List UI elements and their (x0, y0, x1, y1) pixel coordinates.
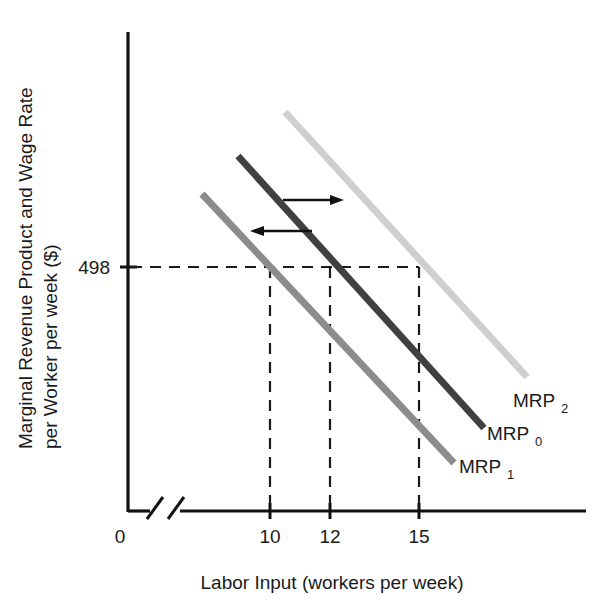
y-axis-title-line2: per Worker per week ($) (40, 245, 61, 450)
series-line-mrp1 (202, 194, 454, 463)
x-axis-title: Labor Input (workers per week) (201, 572, 464, 593)
series-label-mrp0-subscript: 0 (535, 434, 542, 449)
axis-break-slash-left (147, 497, 163, 519)
axis-break-slash-right (168, 497, 184, 519)
series-label-mrp2: MRP 2 (513, 390, 568, 416)
series-label-mrp1: MRP 1 (459, 456, 514, 482)
x-tick-label-15: 15 (408, 526, 429, 547)
shift-right-arrow-icon (283, 195, 344, 205)
series-label-mrp0: MRP 0 (487, 423, 542, 449)
x-tick-label-12: 12 (319, 526, 340, 547)
x-tick-label-0: 0 (115, 526, 126, 547)
series-group (202, 112, 527, 463)
annotation-arrows-group (250, 195, 344, 236)
series-label-mrp0-text: MRP (487, 423, 529, 444)
chart-figure: 498 0 10 12 15 Marginal Revenue Product … (0, 0, 604, 610)
series-label-mrp1-text: MRP (459, 456, 501, 477)
tick-labels-group: 498 0 10 12 15 (78, 257, 429, 547)
series-label-mrp1-subscript: 1 (507, 467, 514, 482)
y-tick-label-498: 498 (78, 257, 110, 278)
axis-titles-group: Marginal Revenue Product and Wage Rate p… (15, 87, 463, 593)
chart-canvas: 498 0 10 12 15 Marginal Revenue Product … (0, 0, 604, 610)
x-tick-label-10: 10 (259, 526, 280, 547)
reference-lines-group (131, 267, 419, 505)
y-axis-title-line1: Marginal Revenue Product and Wage Rate (15, 87, 36, 449)
series-labels-group: MRP 2 MRP 0 MRP 1 (459, 390, 568, 482)
axes-group (128, 32, 586, 519)
series-label-mrp2-text: MRP (513, 390, 555, 411)
series-label-mrp2-subscript: 2 (561, 401, 568, 416)
